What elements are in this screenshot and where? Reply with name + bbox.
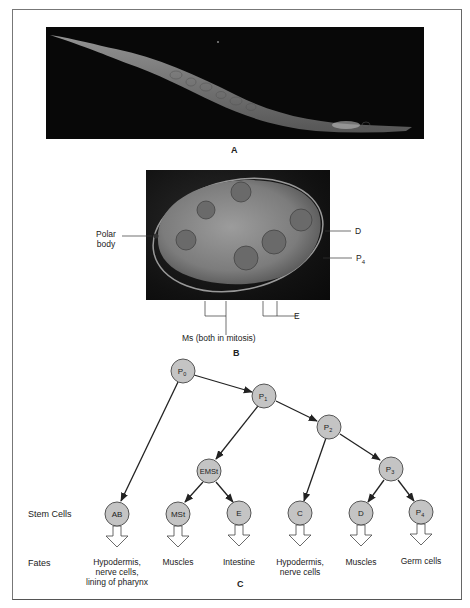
fate-ab: Hypodermis, nerve cells, lining of phary… (86, 557, 148, 587)
fate-c: Hypodermis, nerve cells (276, 557, 324, 577)
node-label-c: C (297, 509, 303, 518)
fate-arrow-ab (106, 526, 128, 547)
edge-p1-emst (216, 406, 258, 459)
edge-emst-mst (185, 482, 203, 502)
fate-ab-line1: Hypodermis, (86, 557, 148, 567)
node-label-d: D (358, 509, 364, 518)
row-label-stem-cells: Stem Cells (28, 509, 72, 519)
node-label-emst: EMSt (200, 467, 219, 476)
row-label-fates: Fates (28, 558, 51, 568)
fate-ab-line2: nerve cells, (86, 567, 148, 577)
edge-p0-p1 (194, 375, 252, 392)
edge-p2-c (304, 438, 326, 501)
fate-arrow-e (228, 525, 250, 546)
fate-c-line1: Hypodermis, (276, 557, 324, 567)
edge-p2-p3 (340, 434, 380, 460)
fate-arrow-mst (167, 526, 189, 547)
node-label-e: E (236, 509, 241, 518)
edge-p3-p4 (398, 480, 414, 501)
node-label-mst: MSt (171, 510, 186, 519)
edge-emst-e (216, 482, 233, 502)
fate-p4: Germ cells (401, 556, 442, 566)
fate-arrow-d (350, 525, 372, 546)
fate-ab-line3: lining of pharynx (86, 577, 148, 587)
fate-d: Muscles (345, 557, 376, 567)
fate-arrow-p4 (410, 524, 432, 545)
fate-mst: Muscles (162, 557, 193, 567)
lineage-nodes (105, 359, 433, 526)
edge-p1-p2 (276, 401, 317, 421)
fate-c-line2: nerve cells (276, 567, 324, 577)
panel-label-c: C (237, 579, 244, 589)
fate-e: Intestine (223, 557, 255, 567)
node-label-ab: AB (112, 510, 123, 519)
edge-p3-d (368, 480, 384, 502)
fate-arrow-c (289, 525, 311, 546)
edge-p0-ab (121, 382, 178, 501)
fate-arrows (106, 524, 432, 547)
